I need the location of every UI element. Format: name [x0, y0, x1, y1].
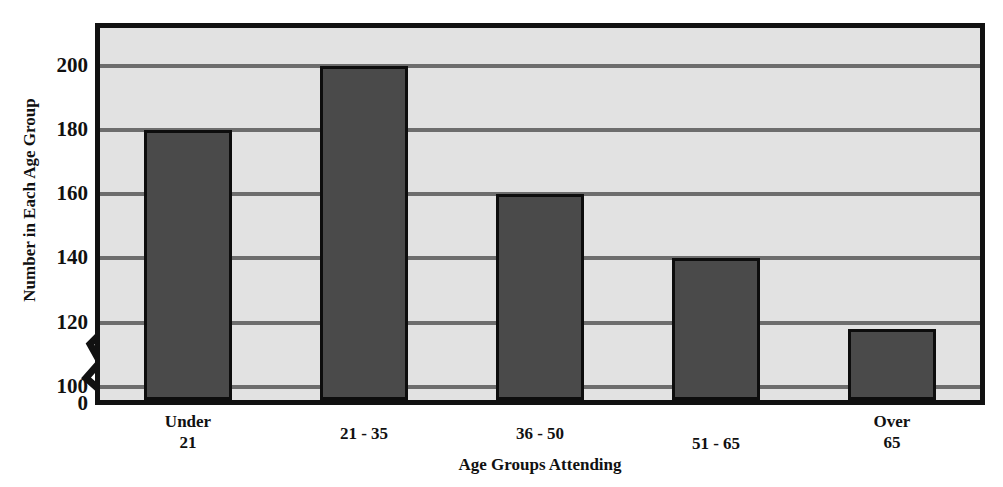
plot-area: [95, 23, 985, 405]
bar[interactable]: [144, 130, 232, 400]
x-axis-tick-label: 36 - 50: [470, 424, 610, 445]
cropped-title-remnant: [200, 0, 1003, 18]
y-axis-tick-label: 120: [8, 312, 88, 333]
y-axis-tick-label: 200: [8, 55, 88, 76]
gridline: [100, 128, 980, 132]
y-axis-tick-label: 160: [8, 183, 88, 204]
bar[interactable]: [672, 258, 760, 400]
x-axis-tick-label: Under 21: [118, 412, 258, 453]
chart-page: Number in Each Age Group 200180160140120…: [0, 0, 1003, 487]
bar[interactable]: [320, 66, 408, 400]
bar[interactable]: [496, 194, 584, 400]
x-axis-title: Age Groups Attending: [95, 455, 985, 475]
y-axis-tick-label: 140: [8, 247, 88, 268]
gridline: [100, 64, 980, 68]
bar[interactable]: [848, 329, 936, 400]
x-axis-tick-label: 51 - 65: [646, 434, 786, 455]
y-axis-tick-labels: 2001801601401201000: [0, 0, 88, 487]
y-axis-tick-label: 180: [8, 119, 88, 140]
y-axis-tick-label: 0: [8, 393, 88, 414]
x-axis-tick-label: 21 - 35: [294, 424, 434, 445]
x-axis-tick-label: Over 65: [822, 412, 962, 453]
plot-inner: [100, 28, 980, 400]
